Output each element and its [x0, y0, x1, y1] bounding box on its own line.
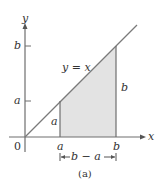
- left-height-label: a: [51, 115, 58, 128]
- origin-label: 0: [14, 140, 21, 153]
- x-tick-label-b: b: [113, 140, 120, 153]
- y-tick-label-a: a: [14, 94, 21, 107]
- y-axis-label: y: [21, 12, 29, 25]
- arrow-right-icon: [111, 155, 115, 159]
- trapezoid-area-diagram: y x 0 b a a b y = x a b b − a (a): [0, 0, 163, 187]
- line-label: y = x: [61, 61, 91, 74]
- y-tick-label-b: b: [14, 39, 21, 52]
- shaded-region: [60, 46, 116, 137]
- x-axis-arrow-icon: [140, 135, 146, 140]
- width-label: b − a: [71, 150, 101, 163]
- right-height-label: b: [121, 81, 128, 94]
- figure-caption: (a): [78, 168, 92, 179]
- x-axis-label: x: [148, 130, 155, 143]
- arrow-left-icon: [61, 155, 65, 159]
- x-tick-label-a: a: [57, 140, 64, 153]
